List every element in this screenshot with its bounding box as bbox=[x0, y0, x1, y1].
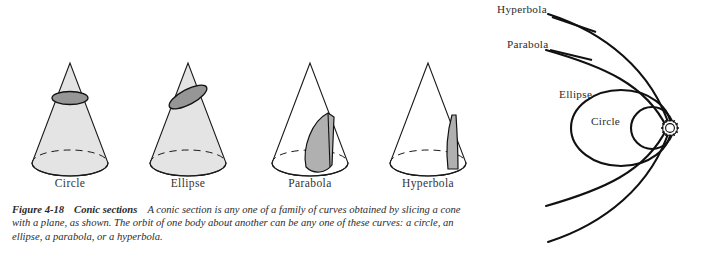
cone-body bbox=[150, 63, 226, 176]
cone-label-circle: Circle bbox=[10, 177, 130, 189]
orbit-path-ellipse bbox=[571, 90, 671, 166]
figure-number: Figure 4-18 bbox=[12, 204, 64, 215]
cone-label-parabola: Parabola bbox=[250, 177, 370, 189]
orbit-label-circle: Circle bbox=[591, 115, 620, 127]
cone-body bbox=[32, 63, 108, 176]
cone-figure-parabola: Parabola bbox=[250, 55, 370, 200]
orbit-label-ellipse: Ellipse bbox=[559, 88, 592, 100]
orbit-label-parabola: Parabola bbox=[507, 38, 549, 50]
orbit-label-hyperbola: Hyperbola bbox=[497, 3, 547, 15]
orbit-path-hyperbola bbox=[548, 14, 670, 242]
orbit-path-parabola bbox=[546, 50, 667, 206]
cone-label-hyperbola: Hyperbola bbox=[368, 177, 488, 189]
orbit-diagram: Hyperbola Parabola Ellipse Circle bbox=[484, 0, 713, 260]
cone-figure-circle: Circle bbox=[10, 55, 130, 200]
figure-title: Conic sections bbox=[74, 204, 137, 215]
cone-figure-hyperbola: Hyperbola bbox=[368, 55, 488, 200]
figure-caption: Figure 4-18Conic sectionsA conic section… bbox=[12, 203, 478, 243]
leader-line-hyperbola bbox=[552, 17, 596, 32]
figure-page: Circle Ellipse Parabola bbox=[0, 0, 713, 260]
cone-figure-ellipse: Ellipse bbox=[128, 55, 248, 200]
caption-line-1: A conic section is any one of a family o… bbox=[147, 204, 438, 215]
cone-label-ellipse: Ellipse bbox=[128, 177, 248, 189]
conic-sections-diagram: Circle Ellipse Parabola bbox=[0, 0, 490, 200]
cross-section-circle bbox=[52, 92, 88, 105]
